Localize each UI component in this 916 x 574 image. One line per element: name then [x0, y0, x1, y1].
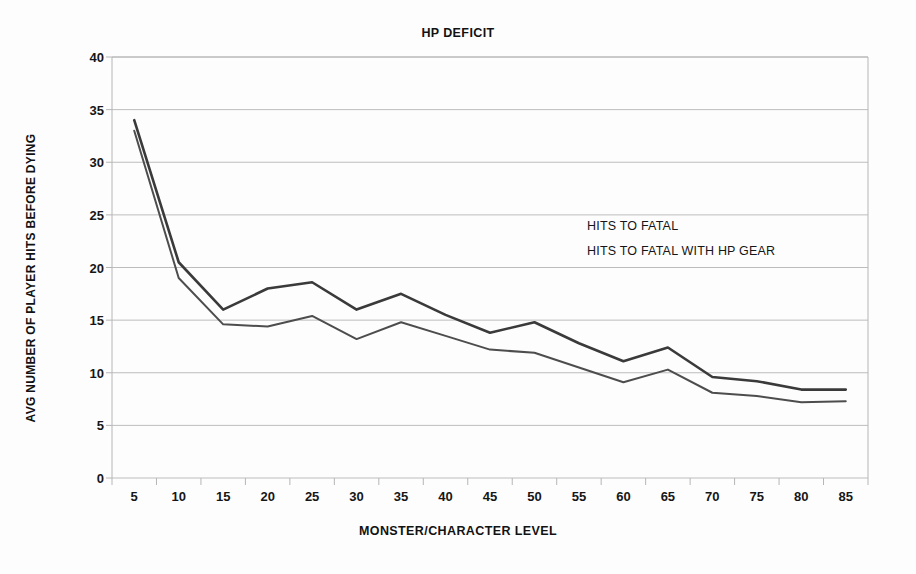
y-tick-label: 30 [58, 155, 104, 170]
x-tick-label: 30 [349, 489, 363, 504]
y-tick-label: 35 [58, 102, 104, 117]
x-tick-label: 40 [438, 489, 452, 504]
x-tick-label: 20 [260, 489, 274, 504]
x-tick-label: 70 [705, 489, 719, 504]
x-tick-label: 55 [572, 489, 586, 504]
y-tick-label: 20 [58, 260, 104, 275]
y-tick-label: 0 [58, 471, 104, 486]
x-tick-label: 85 [839, 489, 853, 504]
x-tick-label: 50 [527, 489, 541, 504]
x-tick-label: 60 [616, 489, 630, 504]
legend-label-hits-to-fatal-with-hp-gear: HITS TO FATAL WITH HP GEAR [587, 244, 775, 258]
x-tick-label: 5 [131, 489, 138, 504]
x-tick-label: 10 [171, 489, 185, 504]
x-tick-label: 65 [661, 489, 675, 504]
y-tick-label: 5 [58, 418, 104, 433]
chart-container: HP DEFICIT AVG NUMBER OF PLAYER HITS BEF… [0, 0, 916, 574]
y-tick-label: 15 [58, 313, 104, 328]
y-tick-marks-group [106, 57, 112, 478]
x-tick-label: 75 [750, 489, 764, 504]
y-tick-label: 25 [58, 207, 104, 222]
x-tick-label: 80 [794, 489, 808, 504]
chart-legend: HITS TO FATAL HITS TO FATAL WITH HP GEAR [545, 213, 775, 263]
x-tick-label: 35 [394, 489, 408, 504]
legend-label-hits-to-fatal: HITS TO FATAL [587, 219, 678, 233]
y-tick-label: 40 [58, 50, 104, 65]
series-line-0 [134, 131, 846, 403]
gridlines-group [112, 57, 868, 478]
legend-item-1: HITS TO FATAL WITH HP GEAR [545, 238, 775, 263]
x-tick-label: 25 [305, 489, 319, 504]
x-tick-label: 45 [483, 489, 497, 504]
y-tick-label: 10 [58, 365, 104, 380]
x-tick-marks-group [112, 478, 868, 485]
legend-item-0: HITS TO FATAL [545, 213, 775, 238]
x-tick-label: 15 [216, 489, 230, 504]
plot-area [0, 0, 916, 574]
